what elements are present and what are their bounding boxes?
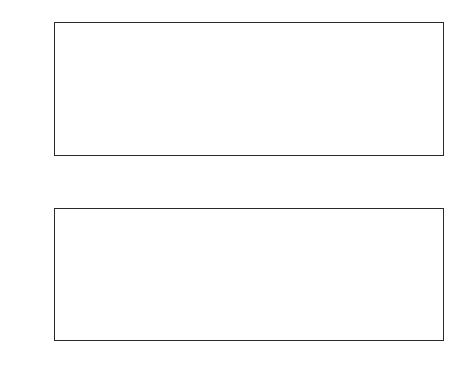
top-panel <box>55 23 444 156</box>
top-panel-axes <box>55 23 444 156</box>
bottom-panel-axes <box>55 209 444 341</box>
bottom-panel <box>55 209 444 341</box>
matched-filter-figure <box>0 0 464 367</box>
bottom-axes-frame <box>55 209 444 341</box>
top-axes-frame <box>55 23 444 156</box>
figure-container <box>0 0 464 367</box>
